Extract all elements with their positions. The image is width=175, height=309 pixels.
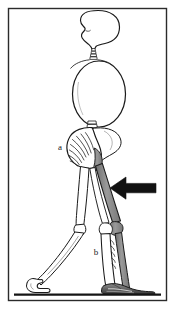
skeleton-illustration: a b <box>0 0 175 309</box>
ribcage <box>73 61 126 127</box>
label-a: a <box>58 142 62 152</box>
lumbar-spine <box>87 121 97 128</box>
vertebra-c3 <box>90 54 96 57</box>
vertebra-c4 <box>90 57 97 60</box>
label-b: b <box>94 247 99 257</box>
ribcage-outline <box>73 61 126 127</box>
vertebra-c2 <box>91 51 96 54</box>
vertebra-c1 <box>92 49 96 52</box>
vertebra-l1 <box>88 121 97 124</box>
figure-container: a b <box>0 0 175 309</box>
